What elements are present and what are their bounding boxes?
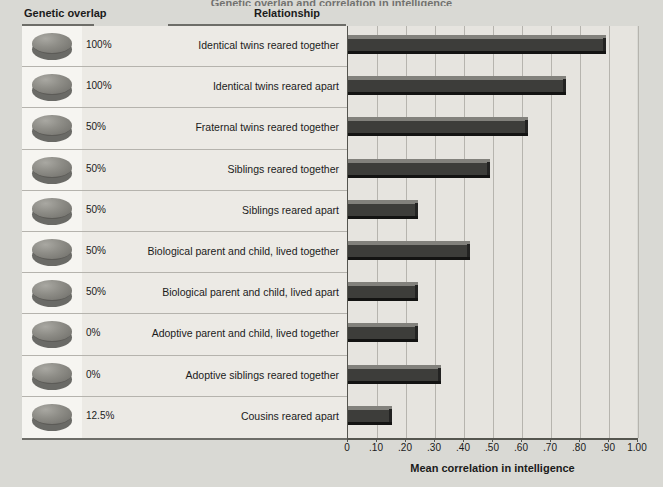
figure-title-sliver: Genetic overlap and correlation in intel… [0, 0, 663, 6]
coin-disc-icon [32, 280, 72, 307]
genetic-overlap-value: 12.5% [86, 410, 114, 421]
coin-disc-top [32, 239, 72, 260]
genetic-overlap-value: 50% [86, 121, 106, 132]
genetic-overlap-value: 50% [86, 163, 106, 174]
x-axis-tick-label: .40 [456, 442, 470, 453]
bar-bottom-shadow [348, 175, 490, 178]
x-axis-tick-label: .30 [427, 442, 441, 453]
relationship-label: Identical twins reared apart [213, 80, 339, 92]
bar [348, 117, 528, 136]
x-axis-tick-label: 0 [344, 442, 350, 453]
coin-disc-icon [32, 363, 72, 390]
bar-bottom-shadow [348, 422, 392, 425]
bar [348, 282, 418, 301]
bar-bottom-shadow [348, 381, 441, 384]
coin-disc-icon [32, 115, 72, 142]
bar-side-face [487, 162, 490, 175]
bar-top-highlight [348, 323, 418, 327]
coin-disc-top [32, 157, 72, 178]
bar [348, 35, 606, 54]
x-axis-tick-label: .60 [514, 442, 528, 453]
bar-bottom-shadow [348, 257, 470, 260]
relationship-label: Cousins reared apart [241, 410, 339, 422]
coin-disc-icon [32, 74, 72, 101]
relationship-label: Adoptive siblings reared together [185, 369, 339, 381]
gridline [580, 26, 581, 438]
column-header-genetic-overlap: Genetic overlap [24, 7, 107, 19]
bar [348, 200, 418, 219]
coin-disc-icon [32, 198, 72, 225]
table-row: 100%Identical twins reared together [22, 26, 347, 67]
coin-disc-top [32, 363, 72, 384]
relationship-label: Siblings reared together [228, 163, 340, 175]
bar-bottom-shadow [348, 298, 418, 301]
x-axis-tick-label: .90 [601, 442, 615, 453]
table-row: 50%Siblings reared apart [22, 191, 347, 232]
x-axis-tick-label: .20 [398, 442, 412, 453]
bar [348, 406, 392, 425]
bar-bottom-shadow [348, 339, 418, 342]
bar-top-highlight [348, 406, 392, 410]
coin-disc-top [32, 198, 72, 219]
bar-side-face [563, 79, 566, 92]
bar [348, 76, 566, 95]
relationship-label: Biological parent and child, lived toget… [148, 245, 339, 257]
coin-disc-icon [32, 33, 72, 60]
gridline [609, 26, 610, 438]
bar-side-face [467, 244, 470, 257]
coin-disc-top [32, 404, 72, 425]
bar-top-highlight [348, 365, 441, 369]
bar-side-face [603, 38, 606, 51]
bar-side-face [415, 326, 418, 339]
genetic-overlap-value: 0% [86, 369, 100, 380]
bar-top-highlight [348, 117, 528, 121]
table-row: 50%Siblings reared together [22, 150, 347, 191]
genetic-overlap-value: 50% [86, 245, 106, 256]
bar-top-highlight [348, 159, 490, 163]
figure-genetic-overlap-intelligence: Genetic overlap and correlation in intel… [0, 0, 663, 487]
bar-bottom-shadow [348, 133, 528, 136]
coin-disc-top [32, 33, 72, 54]
bar-top-highlight [348, 76, 566, 80]
coin-disc-icon [32, 321, 72, 348]
relationship-label: Siblings reared apart [242, 204, 339, 216]
coin-disc-icon [32, 404, 72, 431]
bar-side-face [415, 285, 418, 298]
table-row: 0%Adoptive parent and child, lived toget… [22, 314, 347, 355]
genetic-overlap-value: 50% [86, 204, 106, 215]
coin-disc-icon [32, 239, 72, 266]
bar-side-face [389, 409, 392, 422]
table-row: 50%Biological parent and child, lived to… [22, 232, 347, 273]
bar-bottom-shadow [348, 51, 606, 54]
bar [348, 365, 441, 384]
relationship-table: 100%Identical twins reared together100%I… [22, 26, 347, 438]
bar-bottom-shadow [348, 92, 566, 95]
table-row: 50%Biological parent and child, lived ap… [22, 273, 347, 314]
x-axis-tick-label: .70 [543, 442, 557, 453]
bar-top-highlight [348, 200, 418, 204]
x-axis-tick-label: .80 [572, 442, 586, 453]
relationship-label: Fraternal twins reared together [195, 121, 339, 133]
bar [348, 241, 470, 260]
x-axis-tick-label: .50 [485, 442, 499, 453]
table-row: 100%Identical twins reared apart [22, 67, 347, 108]
relationship-label: Identical twins reared together [198, 39, 339, 51]
bar-side-face [415, 203, 418, 216]
genetic-overlap-value: 0% [86, 327, 100, 338]
column-header-relationship: Relationship [228, 7, 346, 19]
bar-side-face [438, 368, 441, 381]
table-row: 12.5%Cousins reared apart [22, 397, 347, 438]
x-axis-label: Mean correlation in intelligence [347, 462, 638, 474]
x-axis-tick-label: 1.00 [627, 442, 646, 453]
genetic-overlap-value: 50% [86, 286, 106, 297]
bar-chart-plot-area [347, 26, 637, 438]
table-bottom-rule [22, 438, 347, 440]
bar-top-highlight [348, 35, 606, 39]
bar [348, 159, 490, 178]
table-row: 0%Adoptive siblings reared together [22, 356, 347, 397]
genetic-overlap-value: 100% [86, 80, 112, 91]
bar [348, 323, 418, 342]
bar-side-face [525, 120, 528, 133]
relationship-label: Adoptive parent and child, lived togethe… [152, 327, 339, 339]
bar-top-highlight [348, 241, 470, 245]
